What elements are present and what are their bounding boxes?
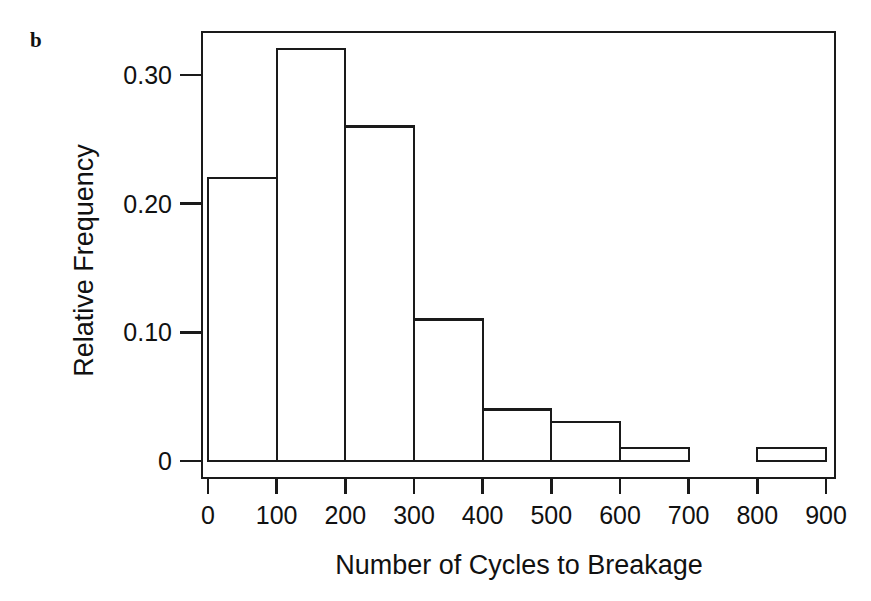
histogram-figure: b Relative Frequency Number of Cycles to… <box>0 0 871 601</box>
y-tick-label: 0.10 <box>123 318 172 346</box>
x-tick-label: 800 <box>736 501 778 529</box>
histogram-bar <box>208 178 277 461</box>
y-tick-label: 0.20 <box>123 190 172 218</box>
histogram-bar <box>551 422 620 461</box>
plot-area: 0100200300400500600700800900 00.100.200.… <box>0 0 871 601</box>
x-tick-label: 400 <box>462 501 504 529</box>
histogram-bar <box>757 448 826 461</box>
y-tick-label: 0.30 <box>123 61 172 89</box>
histogram-bar <box>483 410 552 461</box>
x-tick-label: 500 <box>530 501 572 529</box>
x-axis-ticks: 0100200300400500600700800900 <box>201 478 847 529</box>
histogram-bar <box>345 126 414 461</box>
x-tick-label: 200 <box>324 501 366 529</box>
x-tick-label: 900 <box>805 501 847 529</box>
x-tick-label: 600 <box>599 501 641 529</box>
histogram-bar <box>277 49 346 461</box>
histogram-bar <box>414 319 483 461</box>
bars-group <box>208 49 826 461</box>
y-axis-ticks: 00.100.200.30 <box>123 61 202 475</box>
x-tick-label: 0 <box>201 501 215 529</box>
histogram-bar <box>620 448 689 461</box>
y-tick-label: 0 <box>158 447 172 475</box>
x-tick-label: 300 <box>393 501 435 529</box>
x-tick-label: 100 <box>256 501 298 529</box>
x-tick-label: 700 <box>668 501 710 529</box>
